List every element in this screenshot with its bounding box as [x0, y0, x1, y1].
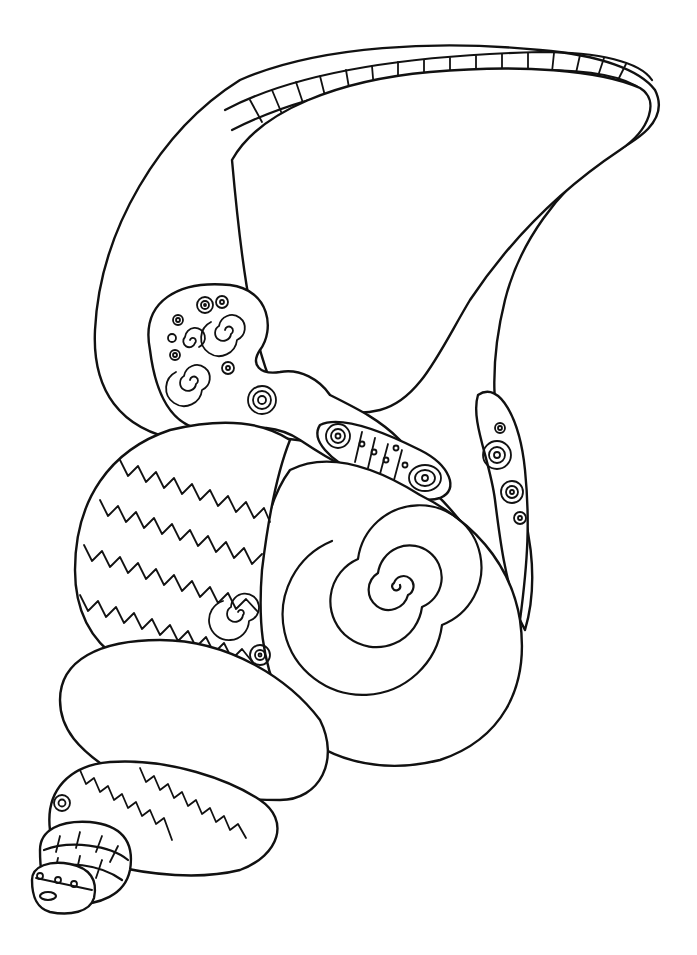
seashell-drawing [0, 0, 697, 955]
shell-apex [32, 822, 131, 914]
seashell-illustration [0, 0, 697, 955]
